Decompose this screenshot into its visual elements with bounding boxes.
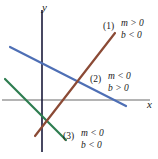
annotation-2-slope: m < 0 <box>108 71 131 83</box>
annotation-3-intercept: b < 0 <box>81 140 104 152</box>
annotation-1-intercept: b < 0 <box>121 30 144 42</box>
annotation-line-3: (3) m < 0 b < 0 <box>63 128 104 152</box>
annotation-line-2: (2) m < 0 b > 0 <box>90 71 131 95</box>
annotation-3-number: (3) <box>63 128 74 142</box>
y-axis-label: y <box>42 2 47 13</box>
annotation-1-number: (1) <box>103 18 114 32</box>
annotation-2-conditions: m < 0 b > 0 <box>108 71 131 95</box>
linear-equations-figure: y x (1) m > 0 b < 0 (2) m < 0 b > 0 (3) … <box>0 0 158 159</box>
annotation-2-number: (2) <box>90 71 101 85</box>
annotation-1-slope: m > 0 <box>121 18 144 30</box>
annotation-3-slope: m < 0 <box>81 128 104 140</box>
annotation-2-intercept: b > 0 <box>108 83 131 95</box>
annotation-3-conditions: m < 0 b < 0 <box>81 128 104 152</box>
annotation-line-1: (1) m > 0 b < 0 <box>103 18 144 42</box>
annotation-1-conditions: m > 0 b < 0 <box>121 18 144 42</box>
x-axis-label: x <box>147 99 152 110</box>
